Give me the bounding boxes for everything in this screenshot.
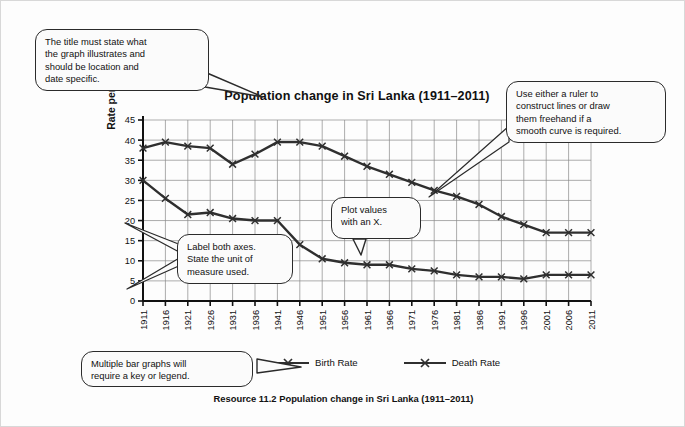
callout-line: should be location and (45, 61, 199, 73)
callout-line: State the unit of (187, 253, 283, 265)
callout-line: The title must state what (45, 36, 199, 48)
callout-line: construct lines or draw (516, 100, 656, 112)
callout-axes-note: Label both axes. State the unit of measu… (177, 234, 293, 284)
callout-legend-note: Multiple bar graphs will require a key o… (81, 351, 253, 387)
callout-line: them freehand if a (516, 113, 656, 125)
callout-title-note: The title must state what the graph illu… (35, 29, 209, 91)
callout-plot-note: Plot values with an X. (331, 197, 421, 239)
callout-line: smooth curve is required. (516, 125, 656, 137)
callout-line: require a key or legend. (91, 370, 243, 382)
callout-line: Multiple bar graphs will (91, 358, 243, 370)
callout-line: the graph illustrates and (45, 48, 199, 60)
callout-line: with an X. (341, 216, 411, 228)
callout-line: Plot values (341, 204, 411, 216)
worksheet-page: Population change in Sri Lanka (1911–201… (0, 0, 685, 427)
callout-line: date specific. (45, 73, 199, 85)
callout-line: Use either a ruler to (516, 88, 656, 100)
callout-line: Label both axes. (187, 241, 283, 253)
callout-ruler-note: Use either a ruler to construct lines or… (506, 81, 666, 143)
callout-line: measure used. (187, 266, 283, 278)
